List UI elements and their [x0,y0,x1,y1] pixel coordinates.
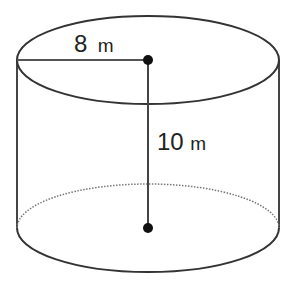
height-value: 10 [157,128,184,155]
top-center-dot [143,55,153,65]
height-label: 10 m [157,130,206,154]
radius-unit: m [98,35,114,56]
bottom-center-dot [143,223,153,233]
radius-label: 8 m [74,32,114,56]
radius-value: 8 [74,30,87,57]
cylinder-diagram: 8 m 10 m [0,0,294,285]
height-unit: m [190,133,206,154]
bottom-front-arc [17,228,279,272]
cylinder-figure [0,0,294,285]
